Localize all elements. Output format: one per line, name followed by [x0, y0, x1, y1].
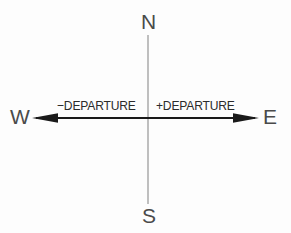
negative-departure-label: −DEPARTURE [57, 99, 136, 112]
departure-axis-diagram: N S W E −DEPARTURE +DEPARTURE [0, 0, 291, 233]
cardinal-label-east: E [263, 106, 278, 127]
cardinal-label-south: S [142, 205, 157, 226]
cardinal-label-west: W [10, 106, 30, 127]
east-arrowhead-icon [233, 113, 259, 123]
west-arrowhead-icon [32, 113, 58, 123]
positive-departure-label: +DEPARTURE [156, 99, 235, 112]
axes-graphic [0, 0, 291, 233]
cardinal-label-north: N [141, 11, 157, 32]
